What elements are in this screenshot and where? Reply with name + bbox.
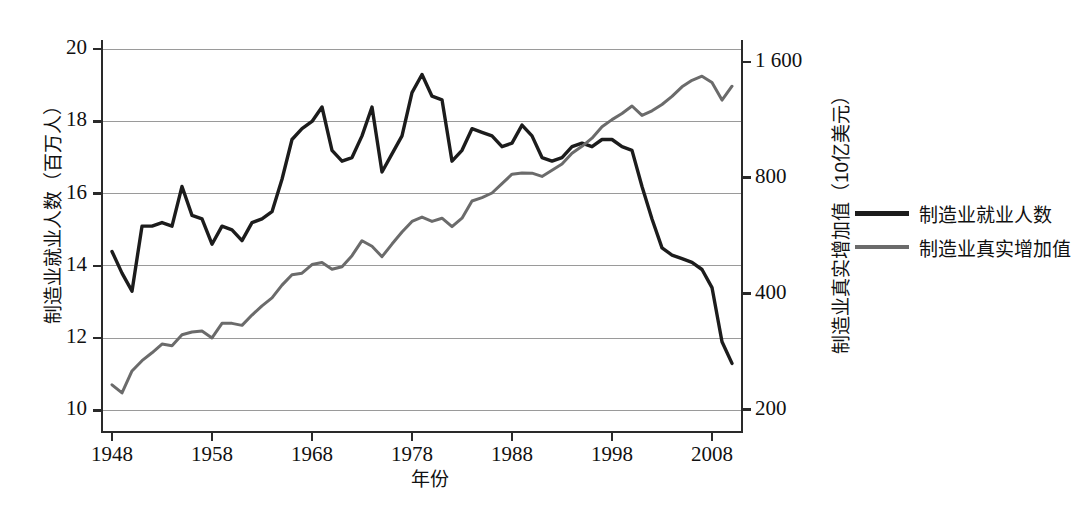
x-axis-tick-label: 1998 — [572, 442, 652, 467]
left-axis-tick-label: 14 — [41, 252, 87, 277]
right-axis-title: 制造业真实增加值（10亿美元） — [826, 10, 854, 430]
x-axis-tick-label: 2008 — [672, 442, 752, 467]
right-axis-tick-label: 1 600 — [755, 48, 825, 73]
left-axis-tick-label: 16 — [41, 180, 87, 205]
left-axis-title: 制造业就业人数（百万人） — [38, 0, 66, 420]
left-axis-tick-label: 12 — [41, 324, 87, 349]
right-axis-tick-label: 400 — [755, 280, 825, 305]
legend-label-employment: 制造业就业人数 — [919, 200, 1052, 227]
series-line-value-added — [112, 76, 732, 393]
legend-item-employment: 制造业就业人数 — [855, 196, 1085, 230]
x-axis-title: 年份 — [330, 464, 530, 491]
left-axis-ticks — [93, 49, 102, 410]
legend-item-value-added: 制造业真实增加值 — [855, 230, 1085, 264]
x-axis-tick-label: 1988 — [472, 442, 552, 467]
legend-line-employment-icon — [855, 211, 909, 216]
x-axis-tick-label: 1978 — [372, 442, 452, 467]
right-axis-ticks — [742, 62, 751, 410]
left-axis-tick-label: 20 — [41, 35, 87, 60]
right-axis-tick-label: 800 — [755, 164, 825, 189]
x-axis-ticks — [112, 432, 712, 441]
left-axis-tick-label: 10 — [41, 396, 87, 421]
chart-legend: 制造业就业人数 制造业真实增加值 — [855, 196, 1085, 264]
x-axis-tick-label: 1948 — [72, 442, 152, 467]
gridlines — [102, 49, 742, 410]
x-axis-tick-label: 1958 — [172, 442, 252, 467]
legend-label-value-added: 制造业真实增加值 — [919, 234, 1071, 261]
legend-line-value-added-icon — [855, 245, 909, 249]
axis-frame — [101, 40, 743, 432]
series-line-employment — [112, 75, 732, 364]
x-axis-tick-label: 1968 — [272, 442, 352, 467]
left-axis-tick-label: 18 — [41, 107, 87, 132]
chart-figure: 制造业就业人数（百万人） 制造业真实增加值（10亿美元） 年份 10121416… — [0, 0, 1091, 512]
right-axis-tick-label: 200 — [755, 396, 825, 421]
